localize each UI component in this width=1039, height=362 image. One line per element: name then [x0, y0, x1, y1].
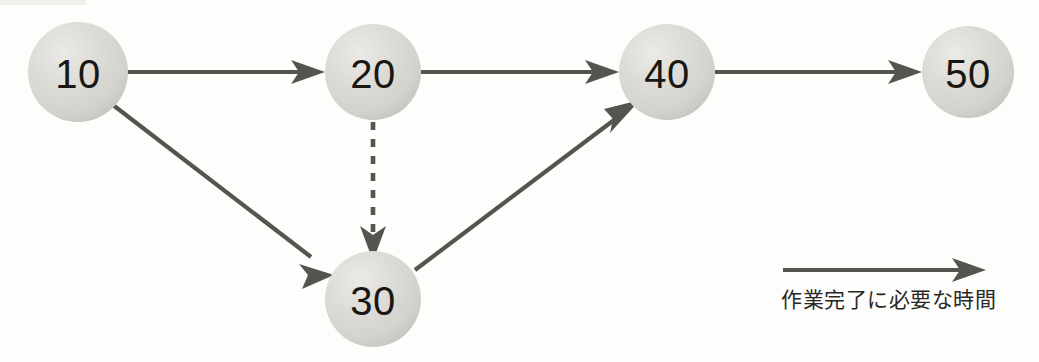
edge-30-to-40 — [415, 100, 640, 270]
legend-caption: 作業完了に必要な時間 — [781, 287, 1011, 313]
edge-10-to-30 — [113, 105, 334, 289]
node-20[interactable]: 20 — [325, 24, 421, 120]
legend-arrow — [783, 258, 986, 282]
edge-10-to-30-line — [113, 105, 311, 257]
edge-40-to-50 — [715, 60, 922, 84]
node-10[interactable]: 10 — [28, 22, 128, 122]
edge-20-to-40 — [421, 60, 619, 84]
node-30-label: 30 — [350, 279, 396, 323]
edge-10-to-20 — [128, 60, 325, 84]
node-50[interactable]: 50 — [922, 26, 1014, 118]
node-30[interactable]: 30 — [325, 251, 421, 347]
node-40-label: 40 — [644, 52, 690, 96]
node-40[interactable]: 40 — [619, 24, 715, 120]
node-10-label: 10 — [55, 52, 101, 96]
edge-20-to-30-dashed — [360, 122, 386, 261]
node-50-label: 50 — [945, 52, 991, 96]
edge-30-to-40-line — [415, 117, 618, 270]
diagram-canvas: 10 20 40 50 30 作業完了に必要な時間 — [0, 0, 1039, 362]
node-20-label: 20 — [350, 52, 396, 96]
